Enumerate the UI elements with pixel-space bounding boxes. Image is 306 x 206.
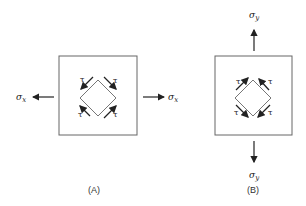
tau-label: τ bbox=[234, 108, 239, 117]
sigma-y-bottom-label: σy bbox=[249, 170, 260, 182]
tau-label: τ bbox=[268, 77, 273, 86]
sigma-x-right-label: σx bbox=[168, 92, 178, 104]
tau-label: τ bbox=[78, 110, 83, 119]
tau-label: τ bbox=[113, 110, 118, 119]
caption-b: (B) bbox=[247, 185, 259, 195]
sigma-y-top-label: σy bbox=[249, 10, 260, 22]
element-square-a bbox=[59, 56, 137, 135]
tau-label: τ bbox=[80, 75, 85, 84]
panel-b: τ τ τ τ σy σy (B) bbox=[215, 10, 292, 195]
tau-label: τ bbox=[268, 108, 273, 117]
sigma-x-left-label: σx bbox=[16, 92, 26, 104]
tau-label: τ bbox=[113, 76, 118, 85]
element-square-b bbox=[215, 56, 292, 135]
caption-a: (A) bbox=[88, 185, 100, 195]
tau-label: τ bbox=[236, 77, 241, 86]
stress-diagram: τ τ τ τ σx σx (A) τ τ τ τ σy σy (B) bbox=[0, 0, 306, 206]
panel-a: τ τ τ τ σx σx (A) bbox=[16, 56, 178, 195]
